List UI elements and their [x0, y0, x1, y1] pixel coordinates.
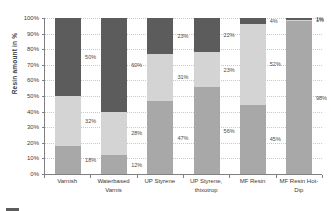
plot-area: 100%90%80%70%60%50%40%30%20%10%0% 50%32%…: [44, 18, 322, 175]
stacked-bar[interactable]: 23%31%47%: [147, 18, 173, 174]
x-tick-label: MF Resin Hot-Dip: [276, 177, 322, 194]
stacked-bar[interactable]: 60%28%12%: [101, 18, 127, 174]
bar-slot: 1%1%98%: [276, 18, 322, 174]
bar-segment[interactable]: 23%: [194, 52, 220, 88]
bar-segment[interactable]: 28%: [101, 112, 127, 156]
y-tick-label: 40%: [5, 109, 39, 115]
bar-segment-label: 1%: [316, 17, 324, 23]
chart-container: Resin amount in % 100%90%80%70%60%50%40%…: [0, 0, 331, 211]
x-tick-label: MF Resin: [229, 177, 275, 194]
x-tick-label: UP Styrene,thixotrop: [183, 177, 229, 194]
legend-swatch-icon: [6, 208, 19, 211]
y-tick-label: 100%: [5, 15, 39, 21]
bar-segment[interactable]: 47%: [147, 101, 173, 174]
x-tick-mark: [322, 175, 323, 178]
y-tick-label: 30%: [5, 124, 39, 130]
y-tick-label: 0%: [5, 171, 39, 177]
x-tick-label: UP Styrene: [137, 177, 183, 194]
bar-segment[interactable]: 60%: [101, 18, 127, 112]
bar-segment[interactable]: 52%: [240, 24, 266, 104]
bar-segment[interactable]: 50%: [55, 18, 81, 96]
bar-slot: 22%23%56%: [184, 18, 230, 174]
x-tick-label: WaterbasedVarnis: [90, 177, 136, 194]
bar-segment[interactable]: 12%: [101, 155, 127, 174]
bar-segment[interactable]: 22%: [194, 18, 220, 52]
x-tick-label: Varnish: [44, 177, 90, 194]
bar-slot: 50%32%18%: [45, 18, 91, 174]
y-tick-label: 70%: [5, 62, 39, 68]
bar-segment[interactable]: 98%: [286, 21, 312, 174]
stacked-bar[interactable]: 4%52%45%: [240, 18, 266, 174]
y-tick-label: 90%: [5, 31, 39, 37]
x-axis-labels: VarnishWaterbasedVarnisUP StyreneUP Styr…: [44, 177, 322, 194]
y-tick-label: 20%: [5, 140, 39, 146]
stacked-bar[interactable]: 22%23%56%: [194, 18, 220, 174]
y-tick-label: 80%: [5, 46, 39, 52]
bar-slot: 23%31%47%: [137, 18, 183, 174]
bar-segment[interactable]: 31%: [147, 54, 173, 102]
bar-slot: 4%52%45%: [230, 18, 276, 174]
bar-segment[interactable]: 56%: [194, 87, 220, 174]
bar-group: 50%32%18%60%28%12%23%31%47%22%23%56%4%52…: [45, 18, 322, 174]
bar-segment[interactable]: 45%: [240, 105, 266, 175]
y-tick-label: 60%: [5, 77, 39, 83]
legend: [6, 208, 23, 211]
bar-segment[interactable]: 18%: [55, 146, 81, 174]
bar-segment[interactable]: 32%: [55, 96, 81, 146]
stacked-bar[interactable]: 1%1%98%: [286, 18, 312, 174]
y-tick-label: 10%: [5, 155, 39, 161]
y-tick-label: 50%: [5, 93, 39, 99]
bar-segment[interactable]: 23%: [147, 18, 173, 54]
stacked-bar[interactable]: 50%32%18%: [55, 18, 81, 174]
bar-segment-label: 98%: [316, 95, 327, 101]
bar-slot: 60%28%12%: [91, 18, 137, 174]
